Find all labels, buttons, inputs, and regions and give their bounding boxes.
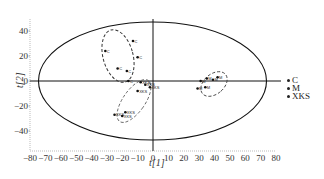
svg-text:−40: −40	[84, 153, 99, 163]
svg-text:−30: −30	[100, 153, 115, 163]
svg-text:XKS: XKS	[139, 89, 147, 94]
svg-text:M: M	[219, 75, 222, 80]
svg-text:−80: −80	[23, 153, 38, 163]
svg-text:M: M	[199, 86, 202, 91]
svg-text:−40: −40	[14, 126, 29, 136]
svg-text:C: C	[128, 69, 131, 74]
svg-text:20: 20	[179, 153, 189, 163]
xks-marker-icon	[287, 95, 290, 98]
svg-text:M: M	[202, 79, 205, 84]
svg-text:40: 40	[210, 153, 220, 163]
svg-text:M: M	[208, 76, 211, 81]
svg-text:XKS: XKS	[151, 85, 159, 90]
pca-score-plot: CCCCCCMMMMMMXKSXKSXKSXKSXKSXKSXKS −80−70…	[0, 0, 324, 179]
svg-text:−20: −20	[14, 101, 29, 111]
svg-text:C: C	[119, 66, 122, 71]
svg-text:C: C	[139, 55, 142, 60]
svg-text:10: 10	[164, 153, 174, 163]
svg-text:−20: −20	[115, 153, 130, 163]
svg-text:20: 20	[19, 51, 29, 61]
y-axis-label: t[2]	[14, 72, 25, 88]
svg-text:M: M	[214, 77, 217, 82]
legend-item-xks: XKS	[287, 92, 310, 100]
svg-text:C: C	[107, 49, 110, 54]
m-marker-icon	[287, 87, 290, 90]
axis-ticks: −80−70−60−50−40−30−20−100102030405060708…	[14, 26, 281, 163]
x-axis-label: t[1]	[149, 157, 165, 168]
svg-text:−60: −60	[54, 153, 69, 163]
svg-text:30: 30	[195, 153, 205, 163]
svg-text:60: 60	[241, 153, 251, 163]
svg-text:−70: −70	[38, 153, 53, 163]
svg-text:XKS: XKS	[124, 114, 132, 119]
svg-text:−50: −50	[69, 153, 84, 163]
c-marker-icon	[287, 79, 290, 82]
svg-text:70: 70	[256, 153, 266, 163]
svg-text:−10: −10	[131, 153, 146, 163]
legend: C M XKS	[287, 76, 310, 100]
svg-text:80: 80	[272, 153, 282, 163]
svg-text:C: C	[135, 39, 138, 44]
svg-text:M: M	[207, 85, 210, 90]
data-points: CCCCCCMMMMMMXKSXKSXKSXKSXKSXKSXKS	[104, 39, 222, 119]
svg-text:50: 50	[225, 153, 235, 163]
svg-text:40: 40	[19, 26, 29, 36]
svg-text:C: C	[130, 79, 133, 84]
